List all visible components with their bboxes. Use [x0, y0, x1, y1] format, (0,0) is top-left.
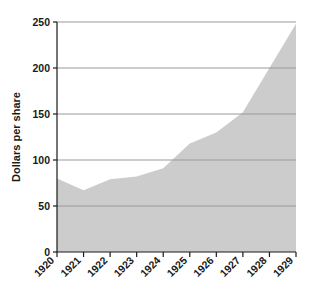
- y-tick-label-250: 250: [32, 16, 50, 28]
- y-tick-label-200: 200: [32, 62, 50, 74]
- x-tick-label-1929: 1929: [270, 254, 295, 279]
- x-tick-label-1925: 1925: [164, 254, 189, 279]
- x-tick-label-1921: 1921: [58, 254, 83, 279]
- x-tick-label-1923: 1923: [111, 254, 136, 279]
- chart-figure: 250200150100500 192019211922192319241925…: [0, 0, 313, 295]
- y-axis-title: Dollars per share: [10, 92, 22, 182]
- x-tick-label-1927: 1927: [217, 254, 242, 279]
- x-tick-label-1920: 1920: [31, 254, 56, 279]
- x-tick-label-1922: 1922: [85, 254, 110, 279]
- x-tick-label-1924: 1924: [138, 254, 163, 279]
- y-tick-label-50: 50: [38, 200, 50, 212]
- x-tick-label-1928: 1928: [244, 254, 269, 279]
- area-chart: 250200150100500 192019211922192319241925…: [0, 0, 313, 295]
- x-axis-ticks: 1920192119221923192419251926192719281929: [31, 252, 296, 279]
- y-axis-ticks: 250200150100500: [32, 16, 57, 258]
- y-tick-label-100: 100: [32, 154, 50, 166]
- x-tick-label-1926: 1926: [191, 254, 216, 279]
- y-tick-label-150: 150: [32, 108, 50, 120]
